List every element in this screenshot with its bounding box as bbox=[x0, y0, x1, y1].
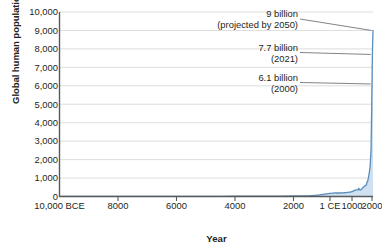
annotation-6-1-billion-line1: 6.1 billion bbox=[258, 72, 298, 83]
annotation-9-billion: 9 billion (projected by 2050) bbox=[217, 8, 298, 31]
annotation-7-7-billion-line2: (2021) bbox=[258, 53, 298, 64]
population-line bbox=[60, 30, 374, 196]
y-axis-tick-labels: 01,0002,0003,0004,0005,0006,0007,0008,00… bbox=[8, 0, 58, 251]
y-axis-tick-label: 9,000 bbox=[12, 26, 58, 35]
gridlines bbox=[60, 12, 374, 178]
x-axis-tick-label: 1 CE bbox=[320, 201, 341, 210]
y-axis-tick-label: 4,000 bbox=[12, 118, 58, 127]
annotation-leader-line bbox=[300, 19, 372, 30]
x-axis-tick-label: 6000 bbox=[166, 201, 187, 210]
x-axis-tick-label: 4000 bbox=[225, 201, 246, 210]
annotation-6-1-billion-line2: (2000) bbox=[258, 83, 298, 94]
y-axis-tick-label: 10,000 bbox=[12, 7, 58, 16]
annotation-leader-line bbox=[300, 53, 371, 55]
x-axis-tick-label: 8000 bbox=[108, 201, 129, 210]
annotation-7-7-billion-line1: 7.7 billion bbox=[258, 42, 298, 53]
annotation-leader-line bbox=[300, 83, 371, 84]
y-axis-tick-label: 7,000 bbox=[12, 63, 58, 72]
annotation-6-1-billion: 6.1 billion (2000) bbox=[258, 72, 298, 95]
y-axis-tick-label: 2,000 bbox=[12, 155, 58, 164]
y-axis-tick-label: 6,000 bbox=[12, 81, 58, 90]
annotation-leader-lines bbox=[300, 19, 372, 84]
y-axis-tick-label: 5,000 bbox=[12, 100, 58, 109]
x-axis-tick-label: 10,000 BCE bbox=[34, 201, 85, 210]
x-axis-tick-label: 2000 bbox=[362, 201, 382, 210]
x-axis-title: Year bbox=[59, 233, 374, 244]
annotation-9-billion-line2: (projected by 2050) bbox=[217, 19, 298, 30]
y-axis-tick-label: 8,000 bbox=[12, 44, 58, 53]
annotation-7-7-billion: 7.7 billion (2021) bbox=[258, 42, 298, 65]
annotation-9-billion-line1: 9 billion bbox=[266, 8, 298, 19]
y-axis-tick-label: 3,000 bbox=[12, 136, 58, 145]
x-axis-tick-label: 2000 bbox=[283, 201, 304, 210]
y-axis-tick-label: 1,000 bbox=[12, 173, 58, 182]
area-fill bbox=[60, 30, 374, 196]
x-axis-tick-label: 1000 bbox=[342, 201, 363, 210]
